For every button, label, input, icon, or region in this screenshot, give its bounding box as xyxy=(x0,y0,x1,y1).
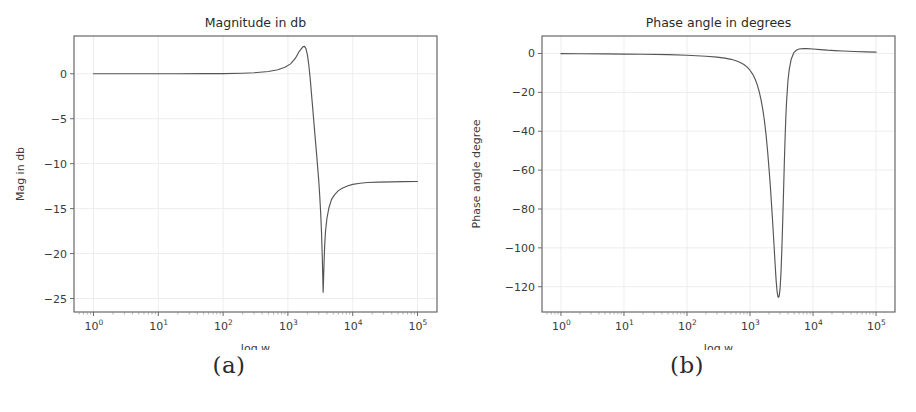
gridlines xyxy=(74,36,437,312)
x-tick-exponent: 1 xyxy=(629,318,634,327)
x-tick-label: 105 xyxy=(867,318,886,333)
y-tick-label: 0 xyxy=(528,47,535,60)
data-curve xyxy=(561,49,876,298)
x-axis-label: log w xyxy=(704,342,733,350)
gridlines xyxy=(542,36,895,312)
x-tick-exponent: 3 xyxy=(755,318,760,327)
magnitude-chart-svg: 1001011021031041050−5−10−15−20−25Magnitu… xyxy=(0,0,458,350)
x-tick-exponent: 0 xyxy=(566,318,571,327)
y-axis: 0−5−10−15−20−25 xyxy=(44,68,74,306)
x-tick-exponent: 2 xyxy=(228,318,233,327)
x-tick-label: 103 xyxy=(741,318,760,333)
x-tick-label: 100 xyxy=(552,318,571,333)
x-tick-label: 101 xyxy=(615,318,634,333)
phase-chart-svg: 1001011021031041050−20−40−60−80−100−120P… xyxy=(458,0,916,350)
x-tick-exponent: 4 xyxy=(358,318,363,327)
y-tick-label: −25 xyxy=(44,293,67,306)
y-tick-label: −5 xyxy=(51,113,67,126)
x-tick-label: 104 xyxy=(344,318,363,333)
axes-frame xyxy=(542,36,895,312)
chart-title: Magnitude in db xyxy=(205,15,306,30)
y-tick-label: −40 xyxy=(512,125,535,138)
y-tick-label: −10 xyxy=(44,158,67,171)
x-axis: 100101102103104105 xyxy=(547,312,886,333)
x-tick-exponent: 4 xyxy=(818,318,823,327)
y-axis: 0−20−40−60−80−100−120 xyxy=(505,47,542,293)
y-tick-label: 0 xyxy=(60,68,67,81)
y-tick-label: −15 xyxy=(44,203,67,216)
panel-magnitude: 1001011021031041050−5−10−15−20−25Magnitu… xyxy=(0,0,458,412)
y-tick-label: −100 xyxy=(505,242,535,255)
subcaption-a: (a) xyxy=(0,352,458,378)
x-tick-exponent: 1 xyxy=(163,318,168,327)
x-tick-exponent: 2 xyxy=(692,318,697,327)
x-tick-exponent: 5 xyxy=(881,318,886,327)
y-tick-label: −120 xyxy=(505,281,535,294)
x-tick-label: 104 xyxy=(804,318,823,333)
y-tick-label: −20 xyxy=(44,248,67,261)
x-tick-label: 101 xyxy=(149,318,168,333)
x-tick-label: 103 xyxy=(279,318,298,333)
chart-title: Phase angle in degrees xyxy=(646,15,792,30)
x-tick-label: 102 xyxy=(678,318,697,333)
y-tick-label: −60 xyxy=(512,164,535,177)
x-tick-exponent: 5 xyxy=(422,318,427,327)
x-tick-exponent: 3 xyxy=(293,318,298,327)
y-axis-label: Phase angle degree xyxy=(470,119,483,228)
y-tick-label: −20 xyxy=(512,86,535,99)
data-curve xyxy=(94,46,418,292)
subcaption-b: (b) xyxy=(458,352,916,378)
x-tick-label: 102 xyxy=(214,318,233,333)
x-axis-label: log w xyxy=(241,342,270,350)
x-tick-exponent: 0 xyxy=(99,318,104,327)
x-tick-label: 100 xyxy=(85,318,104,333)
y-tick-label: −80 xyxy=(512,203,535,216)
panel-phase: 1001011021031041050−20−40−60−80−100−120P… xyxy=(458,0,916,412)
x-tick-label: 105 xyxy=(408,318,427,333)
axes-frame xyxy=(74,36,437,312)
bode-plot-figure: 1001011021031041050−5−10−15−20−25Magnitu… xyxy=(0,0,916,412)
y-axis-label: Mag in db xyxy=(14,147,27,201)
x-axis: 100101102103104105 xyxy=(79,312,427,333)
